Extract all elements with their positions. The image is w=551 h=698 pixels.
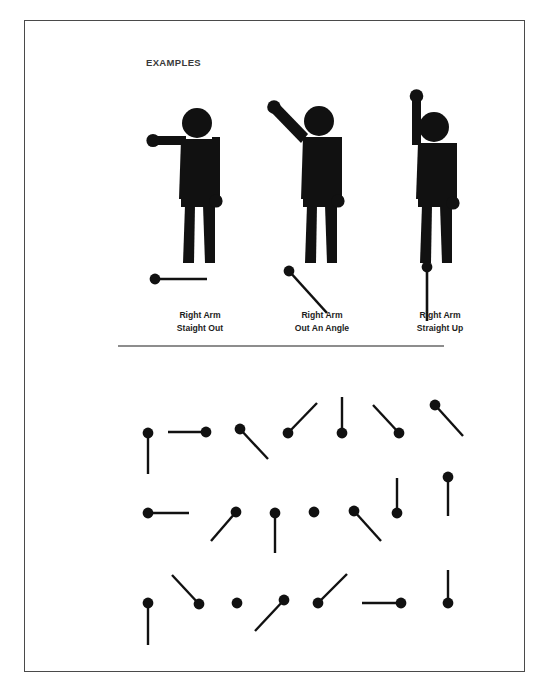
item-dot bbox=[337, 428, 348, 439]
practice-item[interactable] bbox=[337, 397, 348, 438]
item-dot bbox=[349, 506, 360, 517]
practice-item[interactable] bbox=[373, 405, 404, 438]
practice-item[interactable] bbox=[362, 598, 406, 609]
practice-item[interactable] bbox=[172, 575, 204, 609]
item-dot bbox=[143, 508, 154, 519]
item-dot bbox=[394, 428, 405, 439]
practice-item[interactable] bbox=[309, 507, 320, 518]
item-line bbox=[318, 574, 347, 603]
worksheet-page: EXAMPLES Right Arm Staight Out bbox=[24, 20, 525, 672]
item-line bbox=[255, 600, 284, 631]
item-line bbox=[373, 405, 399, 433]
item-dot bbox=[270, 508, 281, 519]
practice-grid bbox=[25, 371, 524, 661]
practice-item[interactable] bbox=[235, 424, 268, 459]
examples-heading: EXAMPLES bbox=[146, 57, 201, 68]
example-caption-3: Right Arm Straight Up bbox=[365, 309, 515, 335]
item-dot bbox=[232, 598, 243, 609]
example-figure-right-arm-straight-up: Right Arm Straight Up bbox=[365, 81, 515, 351]
practice-item[interactable] bbox=[430, 400, 463, 436]
item-dot bbox=[392, 508, 403, 519]
practice-item[interactable] bbox=[349, 506, 381, 541]
practice-item[interactable] bbox=[313, 574, 347, 608]
practice-item[interactable] bbox=[255, 595, 289, 631]
item-dot bbox=[309, 507, 320, 518]
caption-line-1: Right Arm bbox=[365, 309, 515, 322]
practice-item[interactable] bbox=[143, 508, 189, 519]
section-divider bbox=[118, 345, 444, 347]
practice-item[interactable] bbox=[443, 570, 454, 608]
practice-item[interactable] bbox=[143, 428, 154, 474]
practice-item[interactable] bbox=[283, 403, 317, 438]
item-dot bbox=[313, 598, 324, 609]
item-dot bbox=[235, 424, 246, 435]
item-dot bbox=[143, 428, 154, 439]
practice-item[interactable] bbox=[211, 507, 241, 541]
practice-item[interactable] bbox=[232, 598, 243, 609]
item-line bbox=[172, 575, 199, 604]
practice-item[interactable] bbox=[270, 508, 281, 553]
item-line bbox=[435, 405, 463, 436]
item-dot bbox=[201, 427, 212, 438]
item-dot bbox=[143, 598, 154, 609]
item-line bbox=[211, 512, 236, 541]
caption-line-2: Straight Up bbox=[365, 322, 515, 335]
item-dot bbox=[279, 595, 290, 606]
item-dot bbox=[396, 598, 407, 609]
item-dot bbox=[443, 472, 454, 483]
item-line bbox=[288, 403, 317, 433]
item-dot bbox=[194, 599, 205, 610]
item-line bbox=[354, 511, 381, 541]
item-dot bbox=[443, 598, 454, 609]
item-dot bbox=[283, 428, 294, 439]
practice-item[interactable] bbox=[168, 427, 211, 438]
practice-item[interactable] bbox=[392, 478, 403, 518]
item-line bbox=[240, 429, 268, 459]
practice-item[interactable] bbox=[143, 598, 154, 645]
item-dot bbox=[231, 507, 242, 518]
practice-item[interactable] bbox=[443, 472, 454, 516]
item-dot bbox=[430, 400, 441, 411]
